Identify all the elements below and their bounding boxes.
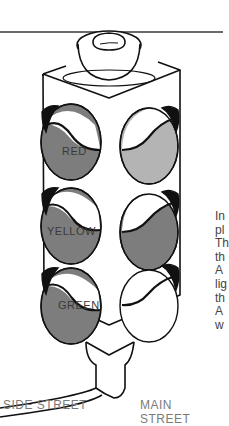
text-line: Th (215, 237, 229, 251)
label-green: GREEN (58, 299, 100, 311)
label-yellow: YELLOW (47, 225, 96, 237)
lamps-main-street (120, 106, 179, 342)
label-red: RED (62, 145, 87, 157)
text-line: th (215, 251, 229, 265)
lamp-red-right (120, 106, 179, 184)
text-line: lig (215, 278, 229, 292)
lamp-red-left (41, 104, 101, 180)
text-line: A (215, 264, 229, 278)
label-side-street: SIDE STREET (3, 398, 87, 412)
lamp-yellow-right (120, 190, 179, 270)
lamp-green-right (120, 264, 179, 342)
text-line: th (215, 292, 229, 306)
label-main-street: MAIN STREET (140, 398, 223, 426)
text-line: In (215, 210, 229, 224)
dome-cap (63, 31, 155, 86)
body-text-fragment: In pl Th th A lig th A w (215, 210, 229, 332)
text-line: A (215, 305, 229, 319)
text-line: pl (215, 224, 229, 238)
text-line: w (215, 319, 229, 333)
